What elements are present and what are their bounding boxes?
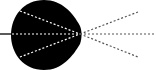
diagram-canvas	[0, 0, 156, 70]
outer-rays	[80, 12, 156, 57]
lens-body	[11, 0, 82, 70]
outer-ray-2	[80, 34, 138, 57]
lens-diagram	[0, 0, 156, 70]
outer-ray-0	[80, 12, 138, 34]
